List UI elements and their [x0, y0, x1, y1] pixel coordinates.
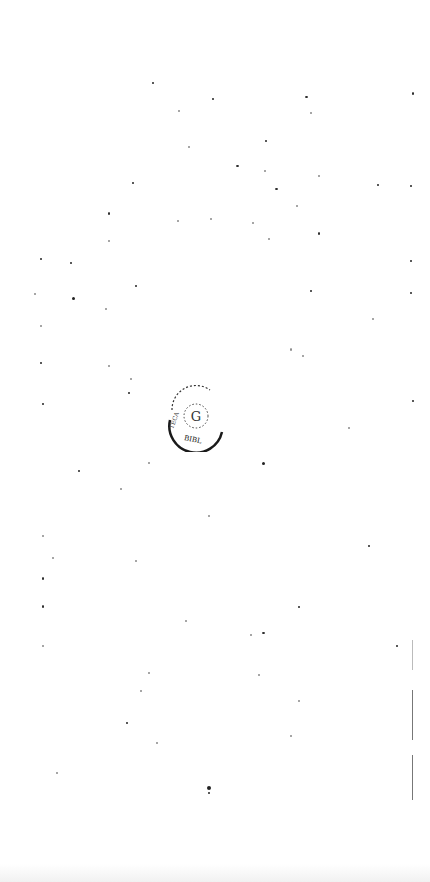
scan-bottom-shadow	[0, 864, 430, 882]
page-edge-line	[412, 690, 413, 740]
page-edge-line	[412, 755, 413, 800]
library-stamp-icon: G BIBL TECA	[160, 380, 228, 452]
page-edge-line	[412, 640, 413, 670]
svg-text:G: G	[191, 409, 201, 424]
svg-text:TECA: TECA	[167, 410, 180, 429]
scanned-page: G BIBL TECA	[0, 0, 430, 882]
svg-text:BIBL: BIBL	[183, 434, 202, 446]
